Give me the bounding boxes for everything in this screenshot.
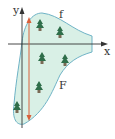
- y-axis-label: y: [12, 4, 20, 17]
- curve-label-F: F: [59, 79, 67, 92]
- x-axis-label: x: [104, 45, 111, 58]
- y-axis-arrow-icon: [20, 7, 25, 14]
- shaded-region: [13, 13, 92, 124]
- region-diagram: y x f F: [0, 0, 115, 139]
- curve-label-f: f: [59, 8, 64, 21]
